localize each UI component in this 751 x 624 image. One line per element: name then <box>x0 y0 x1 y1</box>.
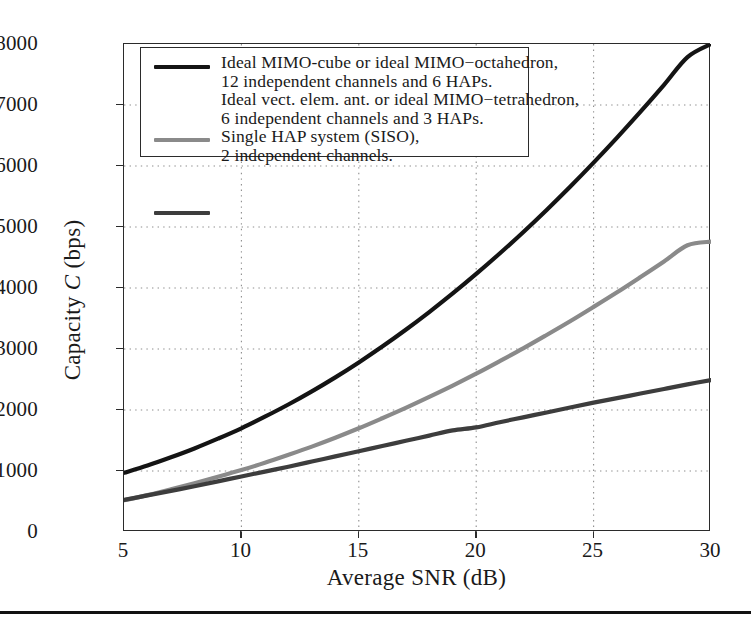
legend-label-line1-1: Ideal vect. elem. ant. or ideal MIMO−tet… <box>221 90 528 109</box>
legend-label-line1-2: Single HAP system (SISO), <box>221 127 528 146</box>
y-tick-label-7000: 7000 <box>0 104 38 125</box>
y-axis-label: Capacity C (bps) <box>60 60 86 540</box>
y-axis-label-text: Capacity <box>60 296 85 380</box>
page-bottom-rule <box>0 611 751 614</box>
y-tick-label-0: 0 <box>0 531 38 552</box>
x-tick-label-5: 5 <box>83 540 163 561</box>
y-axis-label-unit: (bps) <box>60 220 85 269</box>
x-tick-label-10: 10 <box>200 540 280 561</box>
x-tick-mark-20 <box>475 531 476 538</box>
y-tick-label-1000: 1000 <box>0 470 38 491</box>
legend-label-line1-0: Ideal MIMO-cube or ideal MIMO−octahedron… <box>221 53 528 72</box>
x-tick-mark-10 <box>240 531 241 538</box>
chart-legend: Ideal MIMO-cube or ideal MIMO−octahedron… <box>140 47 529 157</box>
x-tick-label-20: 20 <box>435 540 515 561</box>
legend-swatch-2 <box>154 211 210 215</box>
y-tick-label-6000: 6000 <box>0 165 38 186</box>
legend-swatch-0 <box>154 65 210 69</box>
legend-entry-1: Ideal vect. elem. ant. or ideal MIMO−tet… <box>141 90 528 127</box>
curve-series-1 <box>124 242 711 501</box>
x-tick-label-25: 25 <box>553 540 633 561</box>
legend-label-line2-0: 12 independent channels and 6 HAPs. <box>221 72 528 91</box>
y-tick-label-3000: 3000 <box>0 348 38 369</box>
y-tick-label-4000: 4000 <box>0 287 38 308</box>
x-tick-mark-15 <box>358 531 359 538</box>
y-axis-label-symbol: C <box>60 274 85 290</box>
legend-label-line2-1: 6 independent channels and 3 HAPs. <box>221 109 528 128</box>
x-tick-label-30: 30 <box>670 540 750 561</box>
legend-entry-2: Single HAP system (SISO),2 independent c… <box>141 127 528 164</box>
x-tick-label-15: 15 <box>318 540 398 561</box>
legend-label-line2-2: 2 independent channels. <box>221 146 528 165</box>
legend-entry-0: Ideal MIMO-cube or ideal MIMO−octahedron… <box>141 53 528 90</box>
figure-container: 010002000300040005000600070008000 510152… <box>0 0 751 624</box>
x-tick-mark-25 <box>593 531 594 538</box>
y-tick-label-2000: 2000 <box>0 409 38 430</box>
x-axis-label: Average SNR (dB) <box>123 565 710 591</box>
y-tick-label-8000: 8000 <box>0 43 38 64</box>
y-tick-label-5000: 5000 <box>0 226 38 247</box>
